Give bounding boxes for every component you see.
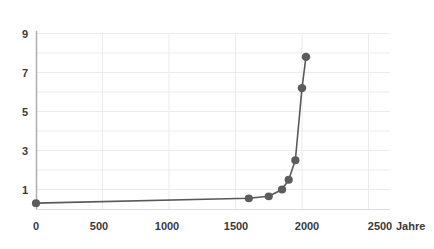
data-point <box>291 156 299 164</box>
x-tick-label-1500: 1500 <box>224 220 248 232</box>
data-point <box>302 53 311 61</box>
data-point <box>265 192 273 200</box>
x-tick-label-1000: 1000 <box>155 220 179 232</box>
data-line-series-0 <box>36 57 306 203</box>
x-tick-label-2500: 2500 <box>368 220 392 232</box>
data-point-markers <box>32 53 310 207</box>
data-point <box>32 199 40 207</box>
data-point <box>278 186 286 194</box>
x-tick-label-0: 0 <box>33 220 39 232</box>
y-tick-label-5: 5 <box>14 106 28 118</box>
data-point <box>298 84 307 92</box>
chart-container: 9 7 5 3 1 0 500 1000 1500 2000 2500 Jahr… <box>0 0 434 249</box>
y-tick-label-3: 3 <box>14 145 28 157</box>
horizontal-gridlines <box>36 34 390 190</box>
chart-plot-area <box>0 0 434 249</box>
data-point <box>285 176 293 184</box>
y-tick-label-7: 7 <box>14 67 28 79</box>
x-axis-title: Jahre <box>396 220 425 232</box>
data-point <box>245 194 253 202</box>
x-tick-label-500: 500 <box>90 220 108 232</box>
y-tick-label-9: 9 <box>14 28 28 40</box>
y-tick-label-1: 1 <box>14 184 28 196</box>
vertical-gridlines <box>103 34 369 210</box>
x-tick-label-2000: 2000 <box>295 220 319 232</box>
